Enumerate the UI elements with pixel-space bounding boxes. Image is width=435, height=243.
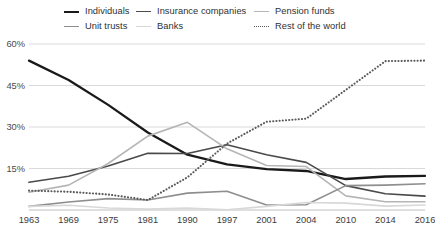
legend-label: Individuals <box>85 6 129 17</box>
series-line-unit-trusts <box>29 184 425 207</box>
legend-item-unit-trusts[interactable]: Unit trusts <box>64 21 127 32</box>
legend-swatch-icon <box>64 11 79 13</box>
series-line-insurance-companies <box>29 145 425 196</box>
x-axis-tick-label: 2016 <box>415 215 435 225</box>
series-line-rest-of-the-world <box>29 61 425 200</box>
x-axis-tick-label: 1969 <box>58 215 79 225</box>
legend-item-individuals[interactable]: Individuals <box>64 6 129 17</box>
x-axis-tick-label: 1997 <box>217 215 238 225</box>
chart-legend: IndividualsInsurance companiesPension fu… <box>0 6 433 40</box>
y-axis-tick-label: 60% <box>0 39 25 49</box>
legend-item-banks[interactable]: Banks <box>136 21 183 32</box>
legend-swatch-icon <box>64 26 79 27</box>
legend-swatch-icon <box>254 11 269 12</box>
x-axis-tick-label: 2010 <box>335 215 356 225</box>
legend-label: Banks <box>157 21 183 32</box>
legend-label: Unit trusts <box>85 21 127 32</box>
legend-label: Pension funds <box>275 6 335 17</box>
legend-label: Rest of the world <box>275 21 346 32</box>
legend-item-pension-funds[interactable]: Pension funds <box>254 6 335 17</box>
y-axis-tick-label: 45% <box>0 81 25 91</box>
legend-swatch-icon <box>136 26 151 27</box>
plot-svg <box>29 44 425 210</box>
plot-area <box>29 44 425 210</box>
legend-swatch-icon <box>254 26 269 27</box>
series-line-individuals <box>29 61 425 179</box>
x-axis-tick-label: 1963 <box>19 215 40 225</box>
legend-swatch-icon <box>136 11 151 12</box>
y-axis-tick-label: 15% <box>0 164 25 174</box>
series-line-banks <box>29 203 425 210</box>
x-axis-tick-label: 2001 <box>256 215 277 225</box>
y-axis-tick-label: 30% <box>0 122 25 132</box>
x-axis-tick-label: 1975 <box>98 215 119 225</box>
legend-item-rest-of-the-world[interactable]: Rest of the world <box>254 21 346 32</box>
legend-label: Insurance companies <box>157 6 246 17</box>
x-axis-tick-label: 1981 <box>137 215 158 225</box>
x-axis-tick-label: 1990 <box>177 215 198 225</box>
x-axis-tick-label: 2004 <box>296 215 317 225</box>
legend-item-insurance-companies[interactable]: Insurance companies <box>136 6 246 17</box>
x-axis-tick-label: 2014 <box>375 215 396 225</box>
